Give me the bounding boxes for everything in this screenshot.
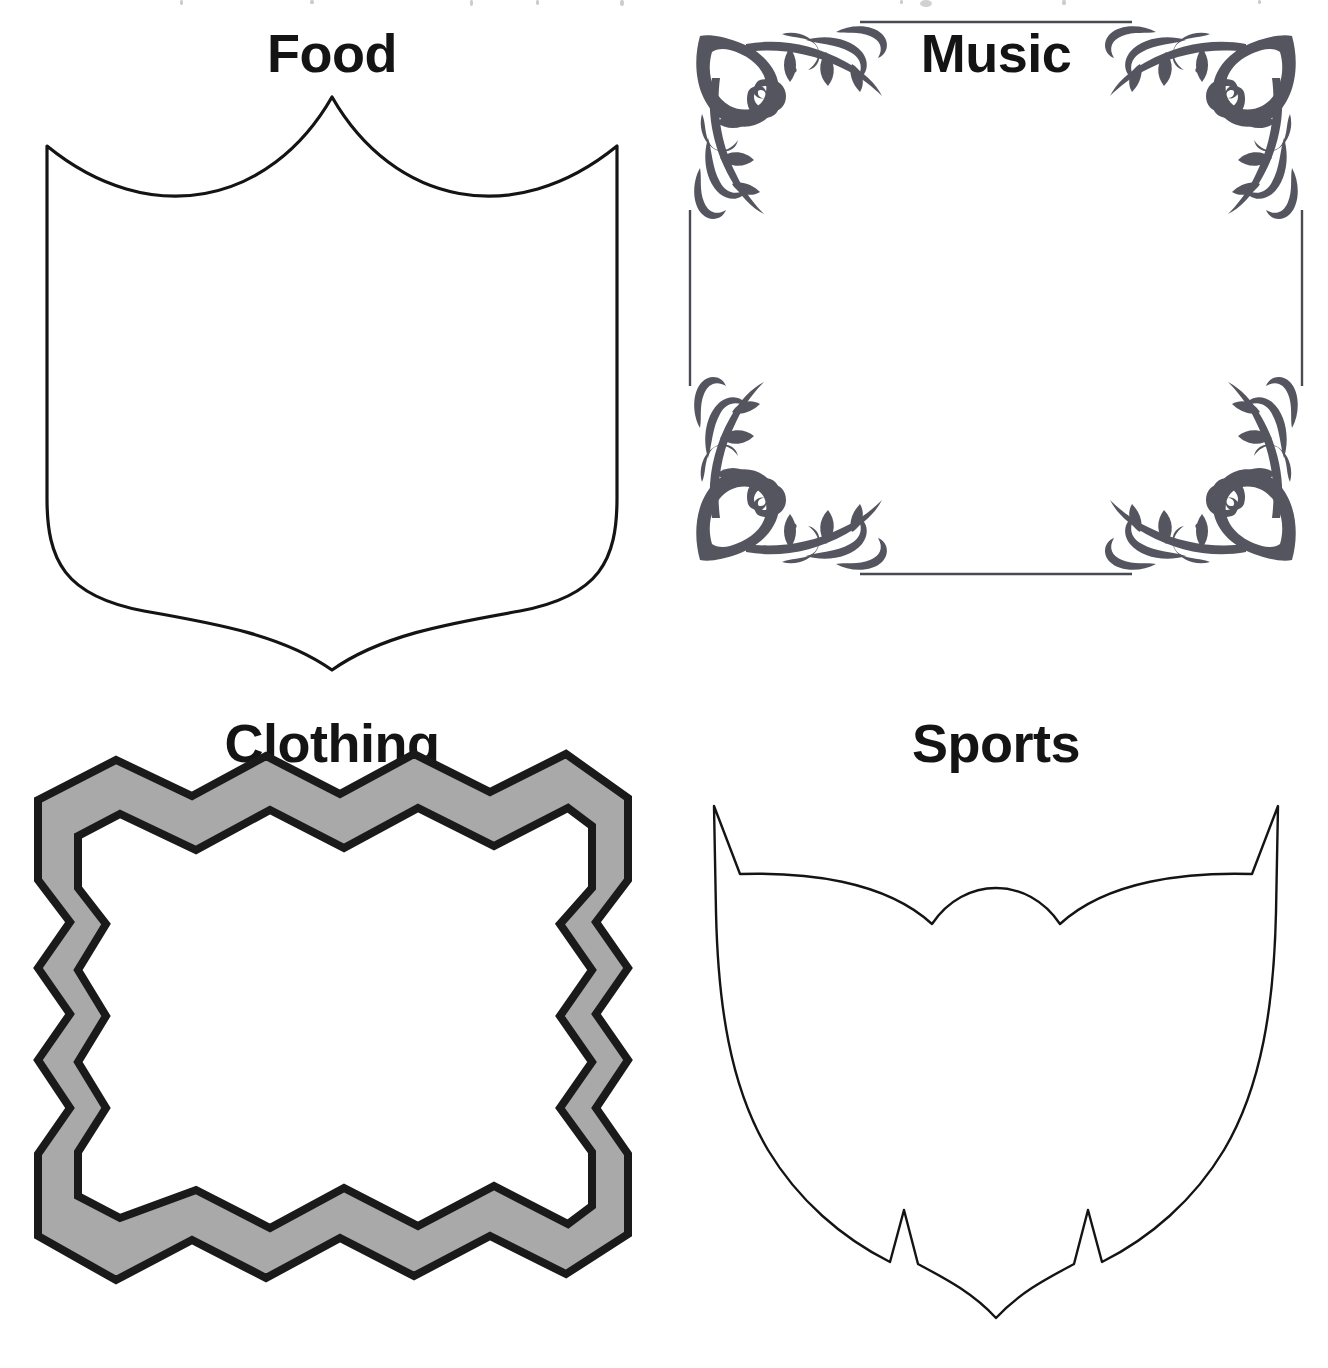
music-ornament-top-right <box>1105 26 1298 219</box>
music-ornate-frame-svg <box>664 0 1328 684</box>
frame-cell-food[interactable]: Food <box>0 0 664 684</box>
shape-sports <box>664 684 1328 1368</box>
music-ornament-bottom-left <box>694 377 887 570</box>
food-shield-path <box>47 97 617 670</box>
music-ornament-bottom-right <box>1105 377 1298 570</box>
clothing-inner-zigzag-path <box>78 808 592 1228</box>
frame-cell-sports[interactable]: Sports <box>664 684 1328 1368</box>
sports-shield-path <box>714 806 1278 1318</box>
clothing-zigzag-frame-svg <box>0 684 664 1368</box>
page-root: Food Music <box>0 0 1328 1368</box>
shape-clothing <box>0 684 664 1368</box>
music-ornament-top-left <box>694 26 887 219</box>
frame-cell-clothing[interactable]: Clothing <box>0 684 664 1368</box>
frames-grid: Food Music <box>0 0 1328 1368</box>
sports-shield-svg <box>664 684 1328 1368</box>
shape-food <box>0 0 664 684</box>
frame-cell-music[interactable]: Music <box>664 0 1328 684</box>
food-shield-svg <box>0 0 664 684</box>
shape-music <box>664 0 1328 684</box>
